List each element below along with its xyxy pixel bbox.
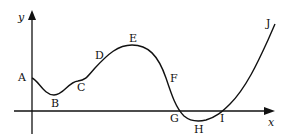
point-label-d: D bbox=[95, 50, 104, 61]
function-curve bbox=[32, 24, 275, 121]
point-label-g: G bbox=[170, 113, 179, 124]
x-axis-arrow-icon bbox=[264, 107, 275, 115]
point-label-h: H bbox=[194, 124, 204, 135]
point-label-b: B bbox=[51, 98, 59, 109]
y-axis-arrow-icon bbox=[28, 10, 36, 20]
point-label-e: E bbox=[129, 33, 137, 44]
point-label-c: C bbox=[77, 82, 85, 93]
point-label-j: J bbox=[266, 18, 270, 29]
x-axis-label: x bbox=[268, 117, 274, 128]
point-label-f: F bbox=[170, 73, 178, 84]
point-label-a: A bbox=[18, 72, 26, 83]
y-axis bbox=[28, 10, 36, 134]
point-label-i: I bbox=[220, 113, 224, 124]
curve-diagram bbox=[0, 0, 284, 137]
y-axis-label: y bbox=[18, 12, 24, 23]
